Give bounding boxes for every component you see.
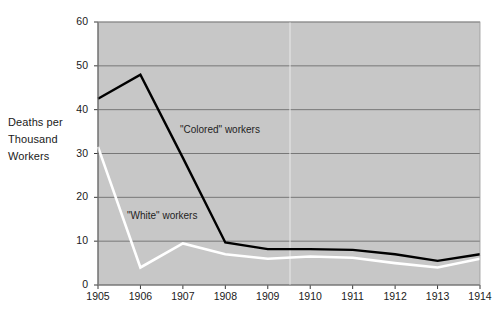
y-tick-label-0: 0 [62, 278, 88, 290]
y-tick-label-50: 50 [62, 59, 88, 71]
series-label-white: "White" workers [127, 210, 197, 221]
y-tick-label-30: 30 [62, 147, 88, 159]
x-tick-label-1909: 1909 [248, 290, 288, 302]
x-tick-label-1911: 1911 [333, 290, 373, 302]
y-tick-label-60: 60 [62, 15, 88, 27]
x-tick-label-1907: 1907 [163, 290, 203, 302]
y-tick-label-40: 40 [62, 103, 88, 115]
x-tick-label-1912: 1912 [375, 290, 415, 302]
series-label-colored: "Colored" workers [180, 124, 260, 135]
chart-figure: Deaths per Thousand Workers "Colored" wo… [0, 0, 497, 323]
x-tick-label-1913: 1913 [418, 290, 458, 302]
y-tick-label-10: 10 [62, 234, 88, 246]
x-tick-label-1905: 1905 [78, 290, 118, 302]
x-tick-label-1906: 1906 [120, 290, 160, 302]
y-axis-title-line-2: Thousand [8, 131, 94, 148]
x-tick-label-1908: 1908 [205, 290, 245, 302]
x-tick-label-1914: 1914 [460, 290, 497, 302]
y-tick-label-20: 20 [62, 190, 88, 202]
x-tick-label-1910: 1910 [290, 290, 330, 302]
y-axis-title-line-1: Deaths per [8, 114, 94, 131]
